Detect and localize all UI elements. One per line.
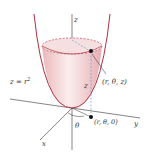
top-ellipse xyxy=(42,38,102,54)
angle-label: θ xyxy=(75,122,80,130)
point-r-theta-z xyxy=(89,49,93,53)
projection-label: (r, θ, 0) xyxy=(94,118,118,126)
x-axis-label: x xyxy=(42,140,46,148)
surface-label: z = r2 xyxy=(9,76,31,86)
point-r-theta-0 xyxy=(89,115,93,119)
x-axis-line xyxy=(40,108,72,140)
point-label: (r, θ, z) xyxy=(102,78,127,86)
height-label: z xyxy=(83,82,88,90)
z-axis-label: z xyxy=(73,16,78,24)
paraboloid-diagram: z y x z = r2 (r, θ, z) (r, θ, 0) θ z xyxy=(0,0,155,156)
angle-arc xyxy=(68,113,84,117)
y-axis-label: y xyxy=(133,120,139,128)
